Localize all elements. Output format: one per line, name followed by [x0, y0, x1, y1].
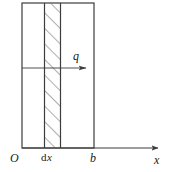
- load-label-q: q: [73, 50, 79, 62]
- figure-canvas: O dx b x q: [0, 0, 172, 172]
- differential-element-strip: [45, 3, 61, 148]
- hatch-pattern: [45, 4, 61, 148]
- dx-label: dx: [41, 152, 52, 163]
- diagram-svg: [0, 0, 172, 172]
- x-axis-label: x: [154, 154, 159, 166]
- width-label-b: b: [90, 152, 96, 164]
- origin-label: O: [10, 152, 19, 164]
- dx-variable: x: [47, 151, 52, 163]
